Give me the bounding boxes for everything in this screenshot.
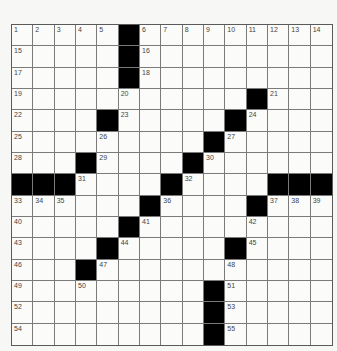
grid-cell[interactable] bbox=[119, 196, 140, 217]
grid-cell[interactable]: 50 bbox=[76, 281, 97, 302]
grid-cell[interactable]: 46 bbox=[12, 260, 33, 281]
grid-cell[interactable]: 19 bbox=[12, 89, 33, 110]
grid-cell[interactable] bbox=[289, 302, 310, 323]
grid-cell[interactable] bbox=[140, 153, 161, 174]
grid-cell[interactable] bbox=[55, 89, 76, 110]
grid-cell[interactable] bbox=[225, 217, 246, 238]
grid-cell[interactable] bbox=[268, 238, 289, 259]
grid-cell[interactable]: 5 bbox=[97, 25, 118, 46]
grid-cell[interactable] bbox=[289, 89, 310, 110]
grid-cell[interactable] bbox=[76, 238, 97, 259]
grid-cell[interactable] bbox=[289, 46, 310, 67]
grid-cell[interactable] bbox=[97, 68, 118, 89]
grid-cell[interactable] bbox=[55, 238, 76, 259]
grid-cell[interactable]: 48 bbox=[225, 260, 246, 281]
grid-cell[interactable]: 24 bbox=[247, 110, 268, 131]
grid-cell[interactable] bbox=[76, 217, 97, 238]
grid-cell[interactable] bbox=[119, 174, 140, 195]
grid-cell[interactable] bbox=[289, 110, 310, 131]
grid-cell[interactable]: 15 bbox=[12, 46, 33, 67]
grid-cell[interactable] bbox=[311, 89, 332, 110]
grid-cell[interactable] bbox=[161, 260, 182, 281]
grid-cell[interactable] bbox=[33, 302, 54, 323]
grid-cell[interactable] bbox=[183, 302, 204, 323]
grid-cell[interactable] bbox=[140, 324, 161, 345]
grid-cell[interactable] bbox=[76, 196, 97, 217]
grid-cell[interactable] bbox=[76, 89, 97, 110]
grid-cell[interactable] bbox=[55, 132, 76, 153]
grid-cell[interactable] bbox=[268, 132, 289, 153]
grid-cell[interactable] bbox=[97, 174, 118, 195]
grid-cell[interactable]: 37 bbox=[268, 196, 289, 217]
grid-cell[interactable] bbox=[33, 46, 54, 67]
grid-cell[interactable] bbox=[76, 302, 97, 323]
grid-cell[interactable] bbox=[289, 260, 310, 281]
grid-cell[interactable] bbox=[204, 217, 225, 238]
grid-cell[interactable] bbox=[225, 174, 246, 195]
grid-cell[interactable]: 1 bbox=[12, 25, 33, 46]
grid-cell[interactable] bbox=[247, 68, 268, 89]
grid-cell[interactable] bbox=[33, 260, 54, 281]
grid-cell[interactable] bbox=[33, 89, 54, 110]
grid-cell[interactable] bbox=[76, 132, 97, 153]
grid-cell[interactable] bbox=[97, 324, 118, 345]
grid-cell[interactable] bbox=[204, 110, 225, 131]
grid-cell[interactable] bbox=[225, 89, 246, 110]
grid-cell[interactable] bbox=[268, 153, 289, 174]
grid-cell[interactable] bbox=[140, 110, 161, 131]
grid-cell[interactable] bbox=[119, 324, 140, 345]
grid-cell[interactable]: 10 bbox=[225, 25, 246, 46]
grid-cell[interactable] bbox=[97, 281, 118, 302]
grid-cell[interactable] bbox=[161, 153, 182, 174]
grid-cell[interactable] bbox=[161, 302, 182, 323]
grid-cell[interactable]: 44 bbox=[119, 238, 140, 259]
grid-cell[interactable] bbox=[161, 217, 182, 238]
grid-cell[interactable] bbox=[247, 46, 268, 67]
grid-cell[interactable] bbox=[97, 217, 118, 238]
grid-cell[interactable]: 11 bbox=[247, 25, 268, 46]
grid-cell[interactable] bbox=[119, 302, 140, 323]
grid-cell[interactable] bbox=[268, 110, 289, 131]
grid-cell[interactable]: 26 bbox=[97, 132, 118, 153]
grid-cell[interactable] bbox=[183, 46, 204, 67]
grid-cell[interactable] bbox=[76, 110, 97, 131]
grid-cell[interactable] bbox=[204, 68, 225, 89]
grid-cell[interactable] bbox=[311, 132, 332, 153]
grid-cell[interactable] bbox=[247, 281, 268, 302]
grid-cell[interactable] bbox=[311, 46, 332, 67]
grid-cell[interactable] bbox=[289, 217, 310, 238]
grid-cell[interactable] bbox=[161, 46, 182, 67]
grid-cell[interactable] bbox=[33, 132, 54, 153]
grid-cell[interactable] bbox=[247, 132, 268, 153]
grid-cell[interactable]: 45 bbox=[247, 238, 268, 259]
grid-cell[interactable] bbox=[183, 324, 204, 345]
grid-cell[interactable] bbox=[311, 217, 332, 238]
grid-cell[interactable]: 18 bbox=[140, 68, 161, 89]
grid-cell[interactable]: 34 bbox=[33, 196, 54, 217]
grid-cell[interactable]: 38 bbox=[289, 196, 310, 217]
grid-cell[interactable] bbox=[183, 110, 204, 131]
grid-cell[interactable] bbox=[119, 153, 140, 174]
grid-cell[interactable]: 3 bbox=[55, 25, 76, 46]
grid-cell[interactable]: 22 bbox=[12, 110, 33, 131]
grid-cell[interactable]: 53 bbox=[225, 302, 246, 323]
grid-cell[interactable]: 16 bbox=[140, 46, 161, 67]
grid-cell[interactable]: 8 bbox=[183, 25, 204, 46]
grid-cell[interactable] bbox=[204, 238, 225, 259]
grid-cell[interactable]: 32 bbox=[183, 174, 204, 195]
grid-cell[interactable]: 47 bbox=[97, 260, 118, 281]
grid-cell[interactable] bbox=[183, 238, 204, 259]
grid-cell[interactable] bbox=[161, 110, 182, 131]
grid-cell[interactable] bbox=[289, 153, 310, 174]
grid-cell[interactable] bbox=[76, 46, 97, 67]
grid-cell[interactable]: 6 bbox=[140, 25, 161, 46]
grid-cell[interactable] bbox=[183, 281, 204, 302]
grid-cell[interactable] bbox=[140, 281, 161, 302]
grid-cell[interactable] bbox=[268, 324, 289, 345]
grid-cell[interactable]: 31 bbox=[76, 174, 97, 195]
grid-cell[interactable] bbox=[247, 324, 268, 345]
grid-cell[interactable] bbox=[311, 281, 332, 302]
grid-cell[interactable] bbox=[33, 281, 54, 302]
grid-cell[interactable] bbox=[33, 153, 54, 174]
grid-cell[interactable] bbox=[33, 68, 54, 89]
